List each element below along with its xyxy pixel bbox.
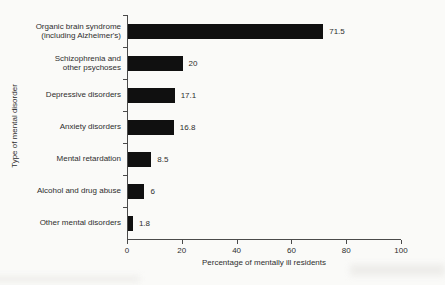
y-axis-tick xyxy=(123,47,127,48)
x-axis-tick xyxy=(401,240,402,244)
bar-row: Other mental disorders1.8 xyxy=(128,207,401,239)
y-axis-tick xyxy=(123,111,127,112)
bar xyxy=(128,120,174,135)
x-tick-label: 80 xyxy=(342,246,351,255)
bar-row: Mental retardation8.5 xyxy=(128,143,401,175)
x-axis-title: Percentage of mentally ill residents xyxy=(127,258,401,267)
x-axis-tick xyxy=(237,240,238,244)
x-axis-tick xyxy=(291,240,292,244)
category-label: Organic brain syndrome (including Alzhei… xyxy=(0,22,121,41)
plot-area: Organic brain syndrome (including Alzhei… xyxy=(127,15,401,240)
y-axis-tick xyxy=(123,175,127,176)
value-label: 20 xyxy=(189,59,198,68)
value-label: 8.5 xyxy=(157,155,168,164)
bar xyxy=(128,24,323,39)
value-label: 17.1 xyxy=(181,91,197,100)
value-label: 1.8 xyxy=(139,219,150,228)
bar xyxy=(128,216,133,231)
category-label: Alcohol and drug abuse xyxy=(0,186,121,196)
y-axis-tick xyxy=(123,15,127,16)
category-label: Anxiety disorders xyxy=(0,122,121,132)
bar-row: Alcohol and drug abuse6 xyxy=(128,175,401,207)
x-axis: 020406080100 xyxy=(127,240,401,258)
y-axis-tick xyxy=(123,207,127,208)
x-tick-label: 60 xyxy=(287,246,296,255)
y-axis-tick xyxy=(123,143,127,144)
x-axis-tick xyxy=(182,240,183,244)
bar-row: Anxiety disorders16.8 xyxy=(128,111,401,143)
category-label: Depressive disorders xyxy=(0,90,121,100)
bar xyxy=(128,184,144,199)
category-label: Schizophrenia and other psychoses xyxy=(0,54,121,73)
bar xyxy=(128,56,183,71)
value-label: 16.8 xyxy=(180,123,196,132)
bar-row: Schizophrenia and other psychoses20 xyxy=(128,47,401,79)
x-tick-label: 40 xyxy=(232,246,241,255)
x-tick-label: 20 xyxy=(177,246,186,255)
scan-smudge xyxy=(0,276,140,282)
x-axis-tick xyxy=(346,240,347,244)
bar-row: Organic brain syndrome (including Alzhei… xyxy=(128,15,401,47)
bar-row: Depressive disorders17.1 xyxy=(128,79,401,111)
x-tick-label: 0 xyxy=(125,246,129,255)
bar xyxy=(128,152,151,167)
category-label: Other mental disorders xyxy=(0,218,121,228)
bar xyxy=(128,88,175,103)
x-axis-tick xyxy=(127,240,128,244)
y-axis-tick xyxy=(123,79,127,80)
value-label: 6 xyxy=(150,187,154,196)
value-label: 71.5 xyxy=(329,27,345,36)
x-tick-label: 100 xyxy=(394,246,407,255)
category-label: Mental retardation xyxy=(0,154,121,164)
